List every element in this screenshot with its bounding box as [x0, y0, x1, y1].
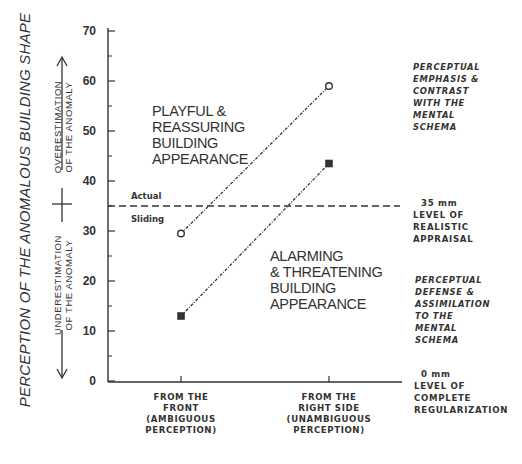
point-sliding [178, 230, 185, 237]
y-axis-title: PERCEPTION OF THE ANOMALOUS BUILDING SHA… [16, 12, 33, 407]
y-tick-label: 50 [83, 124, 97, 138]
annotation-line: MENTAL [415, 323, 457, 333]
y-tick-label: 30 [83, 224, 97, 238]
point-actual [177, 312, 185, 320]
x-tick-label: FROM THE [153, 392, 208, 402]
annotation-line: & THREATENING [270, 264, 382, 280]
annotation-line: APPEARANCE [270, 296, 367, 312]
annotation-line: LEVEL OF [413, 210, 464, 220]
annotation-line: PLAYFUL & [152, 103, 226, 119]
annotation-line: EMPHASIS & [413, 74, 479, 84]
annotation-line: DEFENSE & [415, 287, 474, 297]
chart: PERCEPTION OF THE ANOMALOUS BUILDING SHA… [0, 0, 522, 464]
annotation-line: MENTAL [413, 110, 455, 120]
y-tick-label: 40 [83, 174, 97, 188]
annotation-line: ASSIMILATION [414, 299, 490, 309]
right-upper-annotation: PERCEPTUALEMPHASIS &CONTRASTWITH THEMENT… [413, 62, 480, 132]
underestimation-line-2: OF THE ANOMALY [63, 239, 74, 330]
upper-region-annotation: PLAYFUL &REASSURINGBUILDINGAPPEARANCE [152, 103, 249, 167]
annotation-line: BUILDING [152, 135, 218, 151]
y-tick-label: 20 [83, 274, 97, 288]
annotation-line: ALARMING [270, 248, 343, 264]
annotation-line: SCHEMA [415, 335, 459, 345]
center-cross-icon [52, 188, 72, 222]
annotation-line: REALISTIC [413, 222, 469, 232]
annotation-line: 0 mm [421, 369, 451, 379]
annotation-line: PERCEPTUAL [415, 275, 482, 285]
annotation-line: REASSURING [152, 119, 245, 135]
annotation-line: REGULARIZATION [414, 405, 508, 415]
point-sliding [326, 83, 333, 90]
underestimation-line-1: UNDERESTIMATION [52, 235, 63, 335]
annotation-line: 35 mm [421, 198, 457, 208]
x-tick-label: (AMBIGUOUS [146, 414, 215, 424]
right-bottom-annotation: 0 mmLEVEL OFCOMPLETEREGULARIZATION [414, 369, 508, 415]
x-tick-label: PERCEPTION) [293, 425, 364, 435]
y-tick-label: 0 [89, 374, 96, 388]
lower-region-annotation: ALARMING& THREATENINGBUILDINGAPPEARANCE [270, 248, 382, 312]
annotation-line: LEVEL OF [414, 381, 465, 391]
reference-label-sliding: Sliding [131, 214, 164, 224]
x-tick-label: PERCEPTION) [145, 425, 216, 435]
annotation-line: TO THE [415, 311, 453, 321]
annotation-line: CONTRAST [413, 86, 470, 96]
down-arrow-icon [57, 330, 67, 378]
x-tick-label: RIGHT SIDE [298, 403, 359, 413]
underestimation-label: UNDERESTIMATION OF THE ANOMALY [52, 235, 74, 335]
right-lower-annotation: PERCEPTUALDEFENSE &ASSIMILATIONTO THEMEN… [414, 275, 490, 345]
annotation-line: WITH THE [413, 98, 465, 108]
overestimation-line-2: OF THE ANOMALY [63, 81, 74, 172]
reference-label-actual: Actual [131, 191, 161, 201]
y-tick-label: 70 [83, 24, 97, 38]
x-tick-label: (UNAMBIGUOUS [287, 414, 372, 424]
x-tick-label: FROM THE [301, 392, 356, 402]
annotation-line: APPRAISAL [413, 234, 473, 244]
point-actual [325, 160, 333, 168]
right-mid-annotation: 35 mmLEVEL OFREALISTICAPPRAISAL [413, 198, 473, 244]
y-tick-label: 60 [83, 74, 97, 88]
annotation-line: COMPLETE [414, 393, 471, 403]
annotation-line: BUILDING [270, 280, 336, 296]
annotation-line: SCHEMA [413, 122, 457, 132]
y-tick-label: 10 [83, 324, 97, 338]
x-tick-label: FRONT [163, 403, 199, 413]
annotation-line: APPEARANCE [152, 151, 249, 167]
annotation-line: PERCEPTUAL [413, 62, 480, 72]
overestimation-label: OVERESTIMATION OF THE ANOMALY [52, 81, 74, 174]
